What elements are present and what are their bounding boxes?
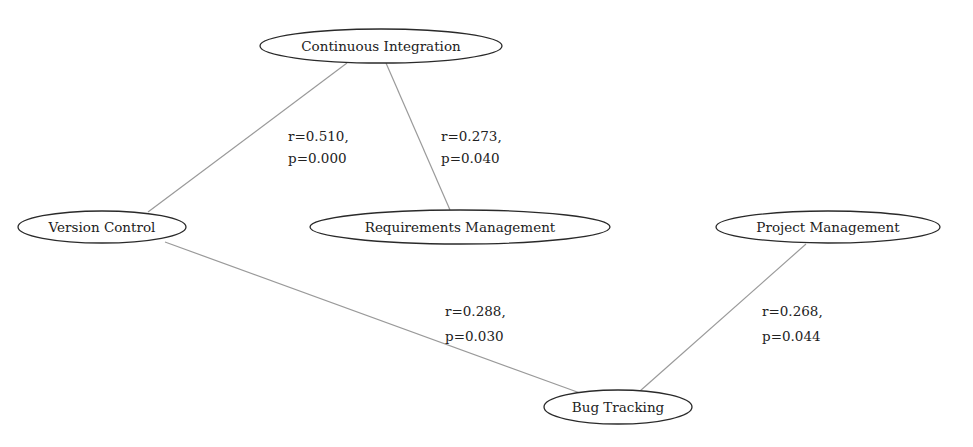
edge-label-ci-rm: r=0.273, p=0.040	[441, 128, 502, 166]
edge-label-pm-bt: r=0.268, p=0.044	[762, 303, 823, 344]
edge-vc-bt	[165, 242, 580, 393]
node-version-control: Version Control	[18, 211, 186, 243]
edge-r-value: r=0.510,	[288, 128, 349, 144]
node-label: Bug Tracking	[572, 399, 665, 415]
edge-p-value: p=0.030	[445, 328, 504, 344]
node-continuous-integration: Continuous Integration	[260, 29, 502, 63]
edge-r-value: r=0.273,	[441, 128, 502, 144]
correlation-diagram: r=0.510, p=0.000 r=0.273, p=0.040 r=0.28…	[0, 0, 973, 447]
node-bug-tracking: Bug Tracking	[544, 390, 692, 424]
node-project-management: Project Management	[716, 211, 940, 243]
edge-label-vc-bt: r=0.288, p=0.030	[445, 303, 506, 344]
node-label: Requirements Management	[365, 219, 556, 235]
node-requirements-management: Requirements Management	[310, 210, 610, 244]
node-label: Project Management	[756, 219, 900, 235]
node-label: Continuous Integration	[301, 38, 461, 54]
node-label: Version Control	[48, 219, 156, 235]
edge-r-value: r=0.288,	[445, 303, 506, 319]
edge-p-value: p=0.044	[762, 328, 821, 344]
edge-p-value: p=0.040	[441, 150, 500, 166]
edge-r-value: r=0.268,	[762, 303, 823, 319]
edge-label-ci-vc: r=0.510, p=0.000	[288, 128, 349, 166]
edge-p-value: p=0.000	[288, 150, 347, 166]
